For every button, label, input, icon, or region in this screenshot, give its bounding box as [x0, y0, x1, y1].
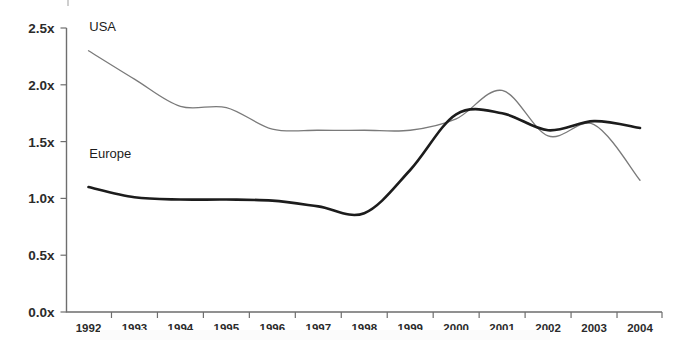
y-axis: 0.0x0.5x1.0x1.5x2.0x2.5x — [28, 21, 66, 320]
x-tick-label: 1992 — [76, 322, 102, 334]
chart-canvas: 0.0x0.5x1.0x1.5x2.0x2.5x 199219931994199… — [0, 0, 673, 345]
x-tick-label: 2004 — [627, 322, 653, 334]
cropped-title-artifact — [67, 0, 69, 6]
axis-spine — [67, 28, 663, 312]
y-tick-label: 1.0x — [28, 191, 55, 206]
y-tick-label: 0.0x — [28, 305, 55, 320]
y-tick-label: 1.5x — [28, 135, 55, 150]
series-label-usa: USA — [89, 19, 116, 34]
y-tick-label: 2.5x — [28, 21, 55, 36]
y-tick-label: 0.5x — [28, 248, 55, 263]
cropped-caption-artifact — [100, 330, 550, 340]
line-chart: 0.0x0.5x1.0x1.5x2.0x2.5x 199219931994199… — [0, 0, 673, 345]
series-annotations: USAEurope — [89, 19, 131, 160]
series-label-europe: Europe — [89, 146, 131, 161]
x-tick-label: 2003 — [581, 322, 607, 334]
y-tick-label: 2.0x — [28, 78, 55, 93]
series-line-usa — [89, 51, 641, 181]
series-line-europe — [89, 109, 641, 215]
series-layer — [89, 51, 641, 215]
